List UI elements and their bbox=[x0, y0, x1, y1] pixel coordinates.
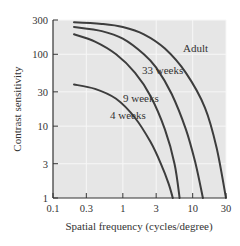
label-4-weeks: 4 weeks bbox=[110, 109, 146, 121]
x-tick-label: 0.3 bbox=[80, 203, 93, 214]
y-axis-label: Contrast sensitivity bbox=[11, 66, 23, 152]
x-tick-label: 0.1 bbox=[46, 203, 59, 214]
y-tick-label: 100 bbox=[32, 49, 48, 60]
x-axis-label: Spatial frequency (cycles/degree) bbox=[65, 220, 213, 233]
contrast-sensitivity-chart: 0.10.3131030 131030100300 Spatial freque… bbox=[0, 0, 240, 246]
x-tick-label: 30 bbox=[221, 203, 232, 214]
x-tick-label: 1 bbox=[120, 203, 125, 214]
y-tick-label: 10 bbox=[38, 121, 49, 132]
y-tick-label: 1 bbox=[43, 193, 48, 204]
y-tick-label: 300 bbox=[32, 15, 48, 26]
label-9-weeks: 9 weeks bbox=[123, 92, 159, 104]
y-tick-label: 30 bbox=[38, 87, 49, 98]
y-tick-label: 3 bbox=[43, 159, 48, 170]
x-tick-label: 3 bbox=[154, 203, 159, 214]
label-33-weeks: 33 weeks bbox=[142, 64, 183, 76]
x-tick-label: 10 bbox=[187, 203, 198, 214]
label-adult: Adult bbox=[183, 42, 208, 54]
